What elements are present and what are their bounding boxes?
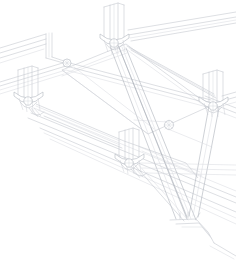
node-mid-right-cross bbox=[164, 120, 174, 130]
drawing-canvas bbox=[0, 0, 236, 261]
node-brace-foot bbox=[170, 212, 236, 259]
node-left-main bbox=[14, 92, 44, 117]
panel-upper-deck bbox=[62, 44, 210, 134]
post-center bbox=[119, 128, 139, 159]
beam-left-spur bbox=[0, 33, 67, 64]
axonometric-wireframe bbox=[0, 0, 236, 261]
brace-right-vertical bbox=[189, 106, 219, 217]
node-upper-left-cross bbox=[63, 59, 71, 67]
post-top bbox=[104, 3, 124, 40]
post-right bbox=[203, 70, 223, 102]
post-left bbox=[18, 66, 38, 98]
node-lower-center bbox=[115, 154, 147, 178]
